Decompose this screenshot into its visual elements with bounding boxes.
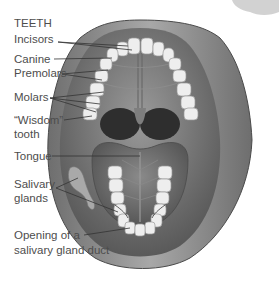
label-wisdom-line2: tooth (14, 127, 40, 141)
label-duct-line1: Opening of a (14, 228, 80, 242)
label-premolars: Premolars (14, 66, 66, 80)
label-molars: Molars (14, 90, 49, 104)
mouth-anatomy-diagram: TEETH Incisors Canine Premolars Molars “… (0, 0, 279, 287)
label-tongue: Tongue (14, 149, 52, 163)
label-salivary-line1: Salivary (14, 177, 55, 191)
label-salivary-line2: glands (14, 191, 48, 205)
label-canine: Canine (14, 52, 50, 66)
teeth-heading: TEETH (14, 16, 52, 30)
throat-left (100, 108, 140, 140)
label-incisors: Incisors (14, 32, 54, 46)
label-wisdom-line1: “Wisdom” (14, 113, 63, 127)
label-duct-line2: salivary gland duct (14, 243, 109, 257)
parotid-gland-shape (232, 0, 279, 15)
throat-right (140, 108, 180, 140)
